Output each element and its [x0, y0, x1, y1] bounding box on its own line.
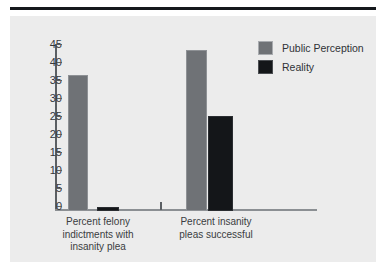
chart-legend: Public Perception Reality — [258, 40, 376, 78]
legend-item-public-perception: Public Perception — [258, 40, 376, 55]
legend-label-public-perception: Public Perception — [282, 42, 364, 54]
chart-figure: 45 40 35 30 25 20 — [0, 0, 386, 272]
public-perception-swatch-icon — [258, 41, 273, 55]
category-label-2-line-1: Percent insanity — [156, 216, 276, 229]
category-label-2: Percent insanity pleas successful — [156, 216, 276, 241]
bar-reality-group2 — [208, 116, 233, 211]
category-label-1-line-1: Percent felony — [38, 216, 158, 229]
legend-label-reality: Reality — [282, 61, 314, 73]
category-label-1-line-2: indictments with — [38, 229, 158, 242]
bar-reality-group1 — [97, 207, 119, 211]
reality-swatch-icon — [258, 60, 273, 74]
chart-panel: 45 40 35 30 25 20 — [10, 16, 376, 262]
bar-public-perception-group1 — [68, 75, 88, 211]
plot-area: 45 40 35 30 25 20 — [10, 16, 376, 262]
legend-item-reality: Reality — [258, 59, 376, 74]
category-label-1: Percent felony indictments with insanity… — [38, 216, 158, 254]
category-label-2-line-2: pleas successful — [156, 229, 276, 242]
top-rule-divider — [10, 7, 376, 10]
bar-public-perception-group2 — [186, 50, 207, 211]
category-label-1-line-3: insanity plea — [38, 241, 158, 254]
